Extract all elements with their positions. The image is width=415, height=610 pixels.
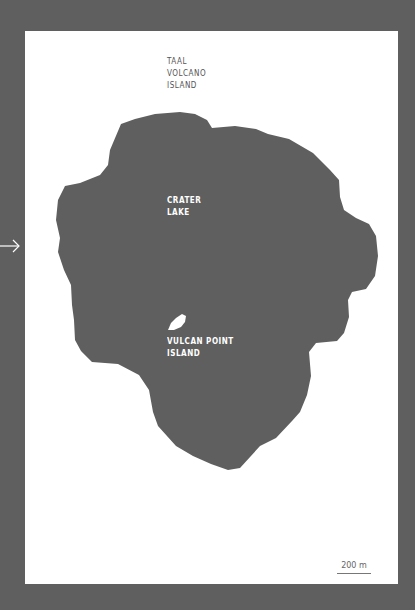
label-line: VOLCANO [167, 67, 206, 79]
label-line: VULCAN POINT [167, 335, 234, 347]
crater-lake-water [56, 112, 378, 470]
label-crater-lake: CRATER LAKE [167, 194, 201, 218]
crater-lake-shape [0, 0, 415, 610]
label-taal-volcano-island: TAAL VOLCANO ISLAND [167, 55, 206, 91]
label-line: ISLAND [167, 347, 234, 359]
label-line: LAKE [167, 206, 201, 218]
scale-bar: 200 m [337, 561, 371, 574]
label-line: ISLAND [167, 79, 206, 91]
scale-bar-line [337, 573, 371, 574]
label-line: CRATER [167, 194, 201, 206]
label-vulcan-point-island: VULCAN POINT ISLAND [167, 335, 234, 359]
arrow-right-icon [0, 238, 22, 254]
label-line: TAAL [167, 55, 206, 67]
scale-bar-label: 200 m [337, 561, 371, 571]
